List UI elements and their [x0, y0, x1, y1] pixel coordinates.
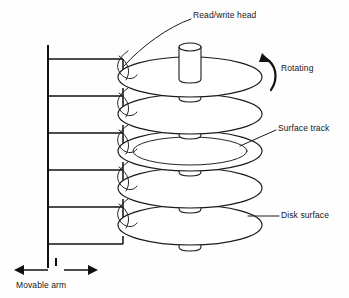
platter-group-1 — [118, 43, 262, 102]
spindle-hub-body — [179, 47, 201, 83]
label-surface-track: Surface track — [278, 124, 329, 133]
diagram-canvas — [0, 0, 349, 298]
label-movable-arm: Movable arm — [16, 281, 66, 290]
rotation-arrow — [259, 53, 276, 90]
disk-drive-diagram: Read/write head Rotating Surface track D… — [0, 0, 349, 298]
spindle-hub-top-cap — [179, 43, 201, 51]
rotation-arrow-arc — [265, 58, 276, 90]
rotation-arrowhead — [259, 53, 271, 62]
access-arm-assembly — [48, 45, 123, 268]
label-disk-surface: Disk surface — [281, 211, 329, 220]
movable-arm-arrow — [14, 258, 98, 275]
movable-arm-arrowhead-right — [88, 265, 98, 275]
label-read-write-head: Read/write head — [193, 11, 256, 20]
movable-arm-arrowhead-left — [14, 265, 24, 275]
label-rotating: Rotating — [281, 64, 313, 73]
